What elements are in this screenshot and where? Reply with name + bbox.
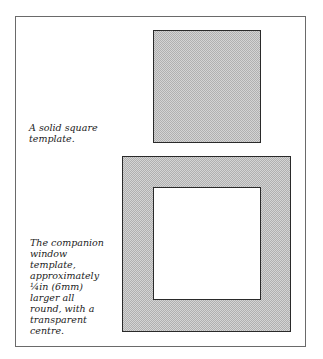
caption-line: A solid square bbox=[29, 122, 98, 133]
caption-line: The companion bbox=[30, 237, 104, 248]
caption-line: approximately bbox=[30, 270, 104, 281]
caption-line: window bbox=[30, 248, 104, 259]
window-template-transparent-centre bbox=[153, 187, 261, 300]
caption-line: template, bbox=[30, 259, 104, 270]
solid-square-template bbox=[153, 30, 261, 143]
caption-line: ¼in (6mm) bbox=[30, 281, 104, 292]
caption-line: transparent bbox=[30, 314, 104, 325]
caption-line: template. bbox=[29, 133, 98, 144]
window-template-caption: The companion window template, approxima… bbox=[30, 237, 104, 336]
solid-square-caption: A solid square template. bbox=[29, 122, 98, 144]
caption-line: round, with a bbox=[30, 303, 104, 314]
caption-line: larger all bbox=[30, 292, 104, 303]
caption-line: centre. bbox=[30, 325, 104, 336]
